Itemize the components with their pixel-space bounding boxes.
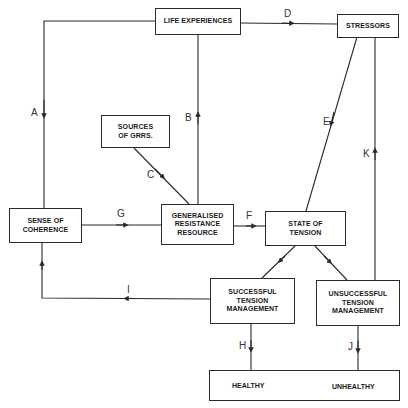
node-successful-tension-management: SUCCESSFUL TENSION MANAGEMENT — [210, 278, 295, 324]
edge-label-k: K — [363, 148, 370, 159]
edge-label-h: H — [239, 340, 246, 351]
node-label: STATE OF TENSION — [288, 220, 322, 237]
edge-i — [42, 242, 210, 299]
node-state-of-tension: STATE OF TENSION — [265, 211, 346, 246]
node-sense-of-coherence: SENSE OF COHERENCE — [9, 208, 82, 243]
node-healthy: HEALTHY — [232, 382, 265, 389]
edge-label-j: J — [348, 341, 353, 352]
node-label: SOURCES OF GRRS. — [118, 123, 153, 140]
node-label: GENERALISED RESISTANCE RESOURCE — [172, 212, 224, 238]
edge-label-e: E — [323, 116, 330, 127]
node-label: LIFE EXPERIENCES — [164, 17, 233, 26]
edge-to-unsuccessful — [315, 246, 347, 280]
edge-label-g: G — [117, 208, 125, 219]
edge-label-a: A — [31, 107, 38, 118]
edge-label-d: D — [284, 8, 291, 19]
node-label: UNSUCCESSFUL TENSION MANAGEMENT — [329, 290, 388, 316]
edge-label-i: I — [127, 284, 130, 295]
node-life-experiences: LIFE EXPERIENCES — [155, 8, 241, 35]
node-unsuccessful-tension-management: UNSUCCESSFUL TENSION MANAGEMENT — [316, 280, 400, 326]
edge-label-c: C — [147, 169, 154, 180]
edge-to-successful — [262, 246, 295, 278]
node-unhealthy: UNHEALTHY — [332, 383, 375, 390]
node-label: SUCCESSFUL TENSION MANAGEMENT — [227, 288, 279, 314]
node-generalised-resistance-resource: GENERALISED RESISTANCE RESOURCE — [161, 204, 234, 245]
node-sources-of-grrs: SOURCES OF GRRS. — [101, 115, 170, 148]
node-label: SENSE OF COHERENCE — [23, 217, 69, 234]
node-stressors: STRESSORS — [337, 14, 399, 38]
edge-label-f: F — [246, 210, 252, 221]
edge-label-b: B — [185, 112, 192, 123]
node-label: STRESSORS — [346, 22, 390, 31]
